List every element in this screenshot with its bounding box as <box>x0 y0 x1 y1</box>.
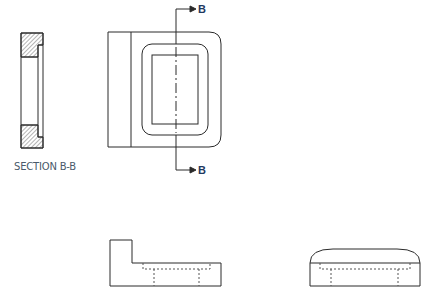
dome-outline <box>310 249 420 286</box>
hidden-lines <box>320 263 410 286</box>
stepped-outline <box>110 240 221 286</box>
arrow-top-icon <box>190 6 196 12</box>
inner-opening <box>152 55 198 124</box>
front-outline <box>108 32 221 147</box>
cutting-plane-label-top: B <box>198 3 206 15</box>
section-label: SECTION B-B <box>14 161 76 172</box>
front-view <box>108 32 221 147</box>
bottom-right-view <box>310 249 420 286</box>
cutting-plane-label-bottom: B <box>198 164 206 176</box>
hidden-lines <box>143 263 210 286</box>
cutting-plane <box>176 6 196 173</box>
technical-drawing: B B <box>0 0 432 307</box>
bottom-left-view <box>110 240 221 286</box>
section-b-b-view <box>21 33 43 148</box>
arrow-bottom-icon <box>190 167 196 173</box>
